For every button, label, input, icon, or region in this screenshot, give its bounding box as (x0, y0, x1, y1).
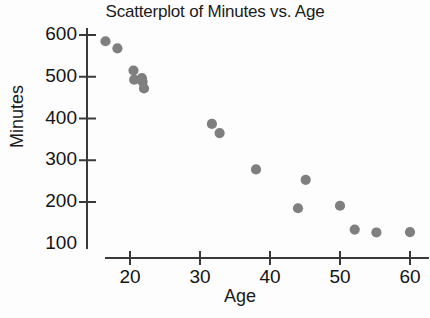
scatter-point (293, 203, 303, 213)
y-tick-label-400: 400 (17, 107, 77, 129)
scatterplot-figure: Scatterplot of Minutes vs. Age Minutes A… (0, 0, 430, 318)
scatter-point (405, 227, 415, 237)
scatter-point (207, 119, 217, 129)
scatter-point (251, 164, 261, 174)
scatter-point (301, 175, 311, 185)
axis-lines (87, 28, 429, 258)
scatter-point (112, 43, 122, 53)
x-tick-label-50: 50 (318, 266, 362, 288)
y-tick-label-500: 500 (17, 65, 77, 87)
y-tick-label-100: 100 (17, 232, 77, 254)
scatter-point (350, 224, 360, 234)
y-tick-label-300: 300 (17, 148, 77, 170)
y-tick-label-600: 600 (17, 23, 77, 45)
x-tick-label-60: 60 (388, 266, 430, 288)
x-tick-label-40: 40 (248, 266, 292, 288)
scatter-point (100, 36, 110, 46)
scatter-point (215, 128, 225, 138)
data-points (100, 36, 415, 237)
scatter-point (139, 83, 149, 93)
scatter-point (128, 65, 138, 75)
y-tick-label-200: 200 (17, 190, 77, 212)
x-tick-label-30: 30 (178, 266, 222, 288)
x-tick-label-20: 20 (108, 266, 152, 288)
scatter-point (335, 201, 345, 211)
scatter-point (371, 227, 381, 237)
